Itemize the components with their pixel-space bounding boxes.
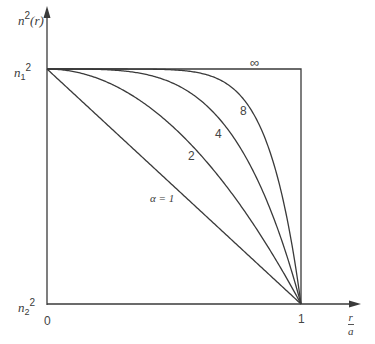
y-axis-title-n: n <box>18 13 25 28</box>
y-axis-title-r: (r) <box>30 13 44 28</box>
y-axis-title-sup: 2 <box>25 10 31 21</box>
curve-label-alpha-2: 2 <box>188 150 195 162</box>
x-axis-arrow-icon <box>349 301 361 308</box>
n2-sub: 2 <box>25 307 30 317</box>
curve-label-alpha-infinity: ∞ <box>250 56 259 69</box>
x-axis-title-denominator: a <box>348 325 354 337</box>
x-tick-0: 0 <box>44 315 51 327</box>
y-axis-arrow-icon <box>44 6 51 18</box>
n1-sub: 1 <box>21 72 26 82</box>
n1-sup: 2 <box>26 62 32 73</box>
n1-base: n <box>14 65 21 80</box>
x-axis-title-numerator: r <box>349 311 353 323</box>
profile-curves <box>47 69 301 304</box>
x-axis-title: ra <box>348 312 354 337</box>
curve-alpha-1 <box>47 69 301 304</box>
x-tick-1: 1 <box>298 313 305 325</box>
chart-canvas <box>0 0 375 344</box>
n2-sup: 2 <box>30 297 36 308</box>
curve-label-alpha-4: 4 <box>215 128 222 140</box>
y-tick-n2-squared: n22 <box>18 301 35 314</box>
curve-label-alpha-8: 8 <box>240 105 247 117</box>
curve-label-alpha-1: α = 1 <box>150 193 174 204</box>
y-axis-title: n2(r) <box>18 14 44 27</box>
y-tick-n1-squared: n12 <box>14 66 31 79</box>
n2-base: n <box>18 300 25 315</box>
